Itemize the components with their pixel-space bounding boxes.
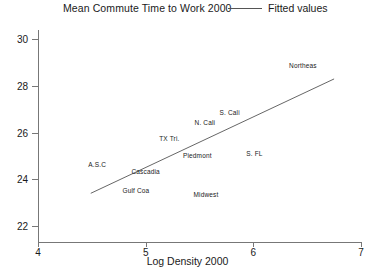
data-point-label: Midwest	[194, 191, 219, 198]
data-point-label: Northeas	[289, 62, 317, 69]
data-point-label: Piedmont	[183, 152, 212, 159]
data-point-label: A.S.C	[88, 161, 106, 168]
data-point-labels: NortheasS. CaliN. CaliTX Tri.S. FLPiedmo…	[0, 0, 375, 268]
data-point-label: Gulf Coa	[123, 187, 150, 194]
data-point-label: Cascadia	[132, 168, 160, 175]
data-point-label: S. FL	[246, 149, 262, 156]
data-point-label: S. Cali	[220, 109, 240, 116]
commute-time-scatter-chart: Mean Commute Time to Work 2000 Fitted va…	[0, 0, 375, 268]
data-point-label: TX Tri.	[159, 134, 179, 141]
x-axis-title: Log Density 2000	[0, 255, 375, 267]
data-point-label: N. Cali	[195, 119, 216, 126]
